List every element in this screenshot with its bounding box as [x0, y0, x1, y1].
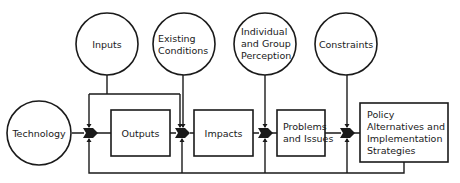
node-constraints: Constraints	[315, 13, 377, 75]
junction-arrow-4	[340, 128, 355, 138]
junction-arrow-1	[83, 128, 98, 138]
existing-conditions-label-line-1: Existing	[158, 33, 196, 44]
node-problems: Problems and Issues	[277, 110, 333, 156]
policy-label-line-1: Policy	[367, 109, 395, 120]
impacts-label: Impacts	[205, 128, 243, 139]
outputs-label: Outputs	[122, 128, 160, 139]
node-outputs: Outputs	[111, 110, 170, 156]
inputs-label: Inputs	[92, 39, 122, 50]
policy-label-line-2: Alternatives and	[367, 121, 445, 132]
constraints-label: Constraints	[319, 39, 373, 50]
problems-label-line-2: and Issues	[283, 133, 333, 144]
node-existing-conditions: Existing Conditions	[153, 13, 215, 75]
node-perception: Individual and Group Perception	[234, 13, 296, 75]
policy-label-line-3: Implementation	[367, 133, 442, 144]
junction-arrow-3	[258, 128, 273, 138]
node-technology: Technology	[7, 101, 71, 165]
policy-flow-diagram: Technology Inputs Existing Conditions In…	[0, 0, 460, 183]
perception-label-line-1: Individual	[241, 26, 287, 37]
policy-label-line-4: Strategies	[367, 145, 416, 156]
existing-conditions-circle	[153, 13, 215, 75]
node-policy: Policy Alternatives and Implementation S…	[360, 103, 448, 162]
existing-conditions-label-line-2: Conditions	[158, 45, 208, 56]
technology-label: Technology	[11, 128, 66, 139]
node-inputs: Inputs	[76, 13, 138, 75]
problems-label-line-1: Problems	[283, 121, 327, 132]
junction-arrow-2	[175, 128, 190, 138]
perception-label-line-2: and Group	[241, 38, 291, 49]
perception-label-line-3: Perception	[241, 50, 291, 61]
node-impacts: Impacts	[194, 110, 253, 156]
